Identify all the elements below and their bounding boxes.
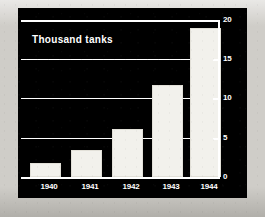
y-label-20: 20 bbox=[223, 16, 231, 24]
x-axis-labels: 1940 1941 1942 1943 1944 bbox=[21, 180, 220, 194]
x-axis-baseline bbox=[21, 177, 220, 179]
bar-1941 bbox=[71, 150, 102, 177]
y-label-0: 0 bbox=[223, 173, 227, 181]
x-label-1942: 1942 bbox=[112, 182, 150, 192]
gridline-20 bbox=[21, 20, 219, 22]
x-label-1940: 1940 bbox=[30, 182, 68, 192]
bar-1944 bbox=[190, 28, 221, 177]
bar-1942 bbox=[112, 129, 143, 177]
x-label-1943: 1943 bbox=[152, 182, 190, 192]
bar-1943 bbox=[152, 85, 183, 177]
x-label-1941: 1941 bbox=[71, 182, 109, 192]
y-label-5: 5 bbox=[223, 134, 227, 142]
x-label-1944: 1944 bbox=[190, 182, 228, 192]
y-tick-15 bbox=[213, 59, 220, 61]
y-label-15: 15 bbox=[223, 55, 231, 63]
y-label-10: 10 bbox=[223, 94, 231, 102]
y-tick-20 bbox=[213, 20, 220, 22]
bar-1940 bbox=[30, 163, 61, 177]
chart-plate: 20 15 10 5 0 1940 1941 1942 1943 1944 Th… bbox=[18, 8, 247, 198]
y-tick-10 bbox=[213, 98, 220, 100]
y-tick-5 bbox=[213, 138, 220, 140]
bar-chart: 20 15 10 5 0 1940 1941 1942 1943 1944 Th… bbox=[18, 8, 247, 198]
chart-title: Thousand tanks bbox=[32, 34, 113, 45]
page-background: 20 15 10 5 0 1940 1941 1942 1943 1944 Th… bbox=[0, 0, 265, 217]
